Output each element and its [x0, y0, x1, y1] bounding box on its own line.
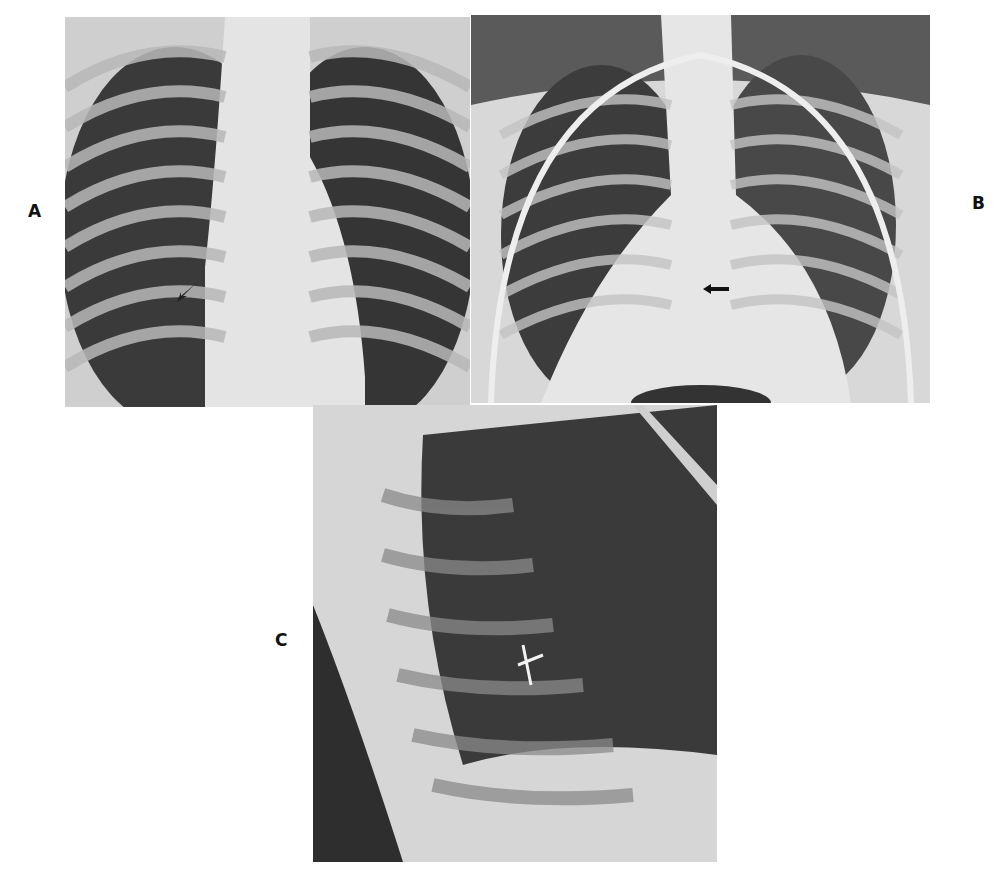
panel-label-c: C — [275, 630, 287, 650]
panel-label-a: A — [28, 201, 41, 221]
arrow-icon — [701, 283, 731, 295]
panel-c-radiograph — [313, 405, 717, 862]
arrow-icon — [175, 282, 197, 304]
panel-a-radiograph — [65, 17, 470, 407]
panel-label-b: B — [972, 193, 985, 213]
panel-b-radiograph — [471, 15, 930, 403]
